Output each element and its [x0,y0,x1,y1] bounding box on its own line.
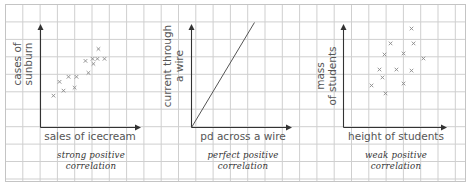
data-point [67,75,71,79]
x-axis-label: pd across a wire [200,130,286,142]
chart-strong-positive: sales of icecream cases of sunburn stron… [11,24,141,171]
caption-line-1: strong positive [57,150,125,160]
data-point [97,47,101,51]
data-point [410,69,414,73]
data-point [91,57,95,61]
data-point [389,42,393,46]
y-axis-label-line-2: of students [326,46,338,105]
data-point [395,68,399,72]
x-axis-arrow-icon [135,125,141,131]
data-point [103,57,107,61]
data-points [52,47,107,97]
caption-line-2: correlation [66,161,116,171]
caption-line-1: perfect positive [207,150,278,160]
caption-line-2: correlation [371,161,421,171]
y-axis-label-line-1: mass [314,62,326,90]
data-point [84,59,88,63]
correlation-figure: sales of icecream cases of sunburn stron… [0,0,469,187]
data-point [370,84,374,88]
caption-line-2: correlation [218,161,268,171]
data-point [381,76,385,80]
caption-line-1: weak positive [365,150,427,160]
data-point [412,42,416,46]
y-axis-arrow-icon [38,24,44,30]
y-axis-label-line-2: a wire [173,50,185,82]
y-axis-arrow-icon [189,24,195,30]
axes [38,24,142,131]
y-axis-label-line-1: current through [161,25,173,107]
axes [341,24,448,131]
correlation-line [192,22,255,127]
y-axis-arrow-icon [341,24,347,30]
x-axis-label: height of students [348,130,444,142]
data-point [75,75,79,79]
axes [189,24,293,131]
y-axis-label-line-2: sunburn [22,43,34,86]
x-axis-arrow-icon [286,125,292,131]
data-point [96,57,100,61]
data-points [370,27,426,95]
data-line [192,22,255,127]
data-point [52,94,56,98]
data-point [378,68,382,72]
x-axis-label: sales of icecream [44,130,136,142]
chart-perfect-positive: pd across a wire current through a wire … [161,22,292,171]
data-point [410,27,414,31]
data-point [58,80,62,84]
